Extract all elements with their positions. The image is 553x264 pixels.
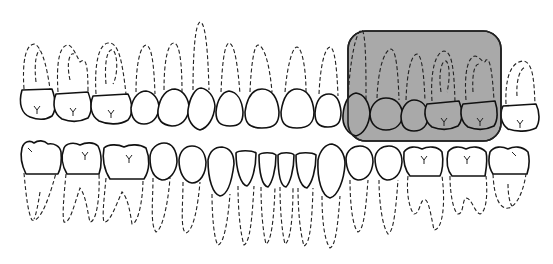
upper-canine-left [188,22,215,130]
upper-lateral-incisor-right [315,47,341,127]
lower-molar-6 [489,147,529,208]
lower-canine-right [318,144,345,248]
upper-molar-6 [501,61,539,131]
lower-molar-5 [447,147,487,214]
lower-premolar-3 [346,146,373,232]
lower-premolar-4 [375,146,402,234]
lower-molar-3 [103,145,149,224]
lower-premolar-1 [150,143,177,232]
lower-molar-1 [21,141,61,220]
mandibular-arch [21,141,529,248]
lower-canine-left [208,147,234,245]
lower-lateral-incisor-right [296,153,316,246]
lower-central-incisor-left [259,153,276,244]
lower-molar-4 [404,147,444,230]
lower-central-incisor-right [278,153,294,244]
lower-lateral-incisor-left [236,151,256,245]
lower-premolar-2 [179,146,206,233]
upper-molar-3 [91,43,132,124]
dentition-svg [0,0,553,264]
upper-premolar-1 [131,45,159,124]
upper-premolar-2 [158,43,189,126]
upper-lateral-incisor-left [216,43,243,126]
lower-molar-2 [62,143,101,222]
upper-central-incisor-right [281,47,314,128]
dental-diagram [0,0,553,264]
upper-molar-2 [54,45,91,121]
upper-central-incisor-left [245,45,279,128]
upper-molar-1 [20,44,55,119]
